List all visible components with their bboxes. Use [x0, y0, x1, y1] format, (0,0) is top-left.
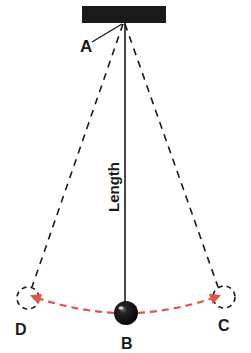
swing-arc-right — [138, 296, 219, 313]
ceiling-support — [82, 6, 166, 23]
left-swing-path — [32, 24, 123, 287]
label-pivot: A — [80, 37, 92, 56]
label-bottom: B — [121, 335, 133, 352]
label-left-extreme: D — [15, 321, 27, 338]
bob-highlight — [119, 306, 124, 310]
right-extreme-position — [213, 286, 235, 308]
pendulum-bob — [114, 301, 138, 325]
left-extreme-position — [17, 287, 39, 309]
label-right-extreme: C — [218, 317, 230, 334]
label-length: Length — [105, 162, 122, 212]
swing-arc-left — [32, 296, 114, 313]
pendulum-diagram: A B C D Length — [0, 0, 251, 353]
right-swing-path — [125, 24, 218, 287]
